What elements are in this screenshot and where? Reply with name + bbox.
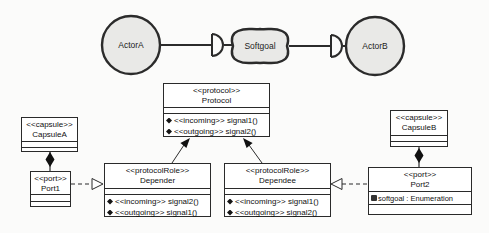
operation-icon (107, 210, 113, 216)
attribute-label: softgoal : Enumeration (378, 194, 453, 203)
generalization-line-dependee (249, 145, 262, 163)
depender-name: Depender (105, 176, 210, 186)
realization-arrow-dependee (331, 179, 342, 190)
depender-stereotype: <<protocolRole>> (105, 166, 210, 176)
operation-icon (166, 129, 172, 135)
dependee-name: Dependee (225, 176, 330, 186)
dependency-d-marker-left-arc (212, 34, 223, 56)
operation-row: <<incoming>> signal1() (227, 196, 329, 207)
operation-label: <<outgoing>> signal2() (235, 208, 317, 217)
actor-a-label: ActorA (102, 40, 160, 50)
attribute-icon (371, 195, 377, 201)
composition-diamond-capsule-b (415, 148, 424, 163)
operation-label: <<incoming>> signal1() (235, 197, 319, 206)
capsule-a-stereotype: <<capsule>> (22, 120, 77, 130)
capsule-a-name: CapsuleA (22, 130, 77, 140)
dependee-stereotype: <<protocolRole>> (225, 166, 330, 176)
operation-row: <<outgoing>> signal2() (227, 207, 329, 218)
port1-class: <<port>> Port1 (30, 171, 71, 207)
port2-operation-compartment (369, 204, 471, 217)
operation-row: <<incoming>> signal1() (166, 115, 268, 126)
capsule-b-name: CapsuleB (391, 123, 447, 133)
capsule-a-operation-compartment (22, 147, 77, 153)
port2-stereotype: <<port>> (369, 170, 471, 180)
port1-operation-compartment (31, 201, 70, 208)
operation-row: <<outgoing>> signal1() (107, 207, 209, 218)
port2-name: Port2 (369, 180, 471, 190)
port2-attribute-compartment: softgoal : Enumeration (369, 191, 471, 204)
protocol-class: <<protocol>> Protocol <<incoming>> signa… (163, 83, 270, 137)
softgoal-label: Softgoal (231, 41, 289, 51)
operation-row: <<incoming>> signal2() (107, 196, 209, 207)
operation-label: <<outgoing>> signal1() (115, 208, 197, 217)
operation-icon (227, 210, 233, 216)
port1-stereotype: <<port>> (31, 174, 70, 184)
port1-attribute-compartment (31, 194, 70, 201)
operation-icon (107, 199, 113, 205)
generalization-arrow-depender (180, 138, 190, 148)
protocol-name: Protocol (164, 96, 269, 106)
operation-row: <<outgoing>> signal2() (166, 126, 268, 137)
operation-label: <<incoming>> signal1() (174, 116, 258, 125)
operation-icon (166, 118, 172, 124)
protocol-operation-compartment: <<incoming>> signal1() <<outgoing>> sign… (164, 113, 269, 138)
capsule-b-operation-compartment (391, 141, 447, 148)
port1-name: Port1 (31, 184, 70, 194)
dependency-diagram: ActorA Softgoal ActorB <<capsule>> Capsu… (0, 0, 489, 233)
operation-label: <<outgoing>> signal2() (174, 127, 256, 136)
capsule-b-class: <<capsule>> CapsuleB (390, 110, 448, 147)
protocol-stereotype: <<protocol>> (164, 86, 269, 96)
operation-label: <<incoming>> signal2() (115, 197, 199, 206)
depender-operation-compartment: <<incoming>> signal2() <<outgoing>> sign… (105, 194, 210, 218)
capsule-b-stereotype: <<capsule>> (391, 113, 447, 123)
composition-diamond-capsule-a (46, 152, 55, 167)
capsule-a-class: <<capsule>> CapsuleA (21, 117, 78, 152)
dependee-class: <<protocolRole>> Dependee <<incoming>> s… (224, 163, 331, 217)
port2-class: <<port>> Port2 softgoal : Enumeration (368, 167, 472, 215)
generalization-line-depender (172, 145, 184, 163)
actor-b-label: ActorB (346, 41, 404, 51)
dependee-operation-compartment: <<incoming>> signal1() <<outgoing>> sign… (225, 194, 330, 218)
operation-icon (227, 199, 233, 205)
realization-arrow-depender (92, 179, 103, 190)
generalization-arrow-dependee (243, 138, 253, 148)
dependency-d-marker-right-arc (331, 35, 342, 57)
depender-class: <<protocolRole>> Depender <<incoming>> s… (104, 163, 211, 217)
